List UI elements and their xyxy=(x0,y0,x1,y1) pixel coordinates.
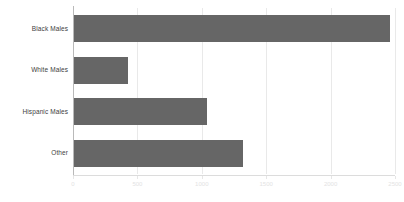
x-tick-label-2500: 2500 xyxy=(388,181,401,187)
bar-row xyxy=(73,57,395,84)
x-tick-label-1500: 1500 xyxy=(260,181,273,187)
x-tick-mark-2500 xyxy=(395,176,396,179)
bar-white-males[interactable] xyxy=(73,57,128,84)
x-tick-mark-2000 xyxy=(331,176,332,179)
x-tick-label-0: 0 xyxy=(71,181,74,187)
bar-other[interactable] xyxy=(73,140,243,167)
category-label-hispanic-males: Hispanic Males xyxy=(0,108,68,115)
x-tick-mark-500 xyxy=(137,176,138,179)
y-axis-line xyxy=(73,6,74,176)
bar-row xyxy=(73,15,395,42)
bar-chart: Black MalesWhite MalesHispanic MalesOthe… xyxy=(0,0,404,202)
x-tick-mark-1500 xyxy=(266,176,267,179)
x-tick-mark-1000 xyxy=(202,176,203,179)
bar-row xyxy=(73,98,395,125)
bar-black-males[interactable] xyxy=(73,15,390,42)
bar-row xyxy=(73,140,395,167)
x-tick-label-2000: 2000 xyxy=(324,181,337,187)
bar-hispanic-males[interactable] xyxy=(73,98,207,125)
category-label-white-males: White Males xyxy=(0,66,68,73)
plot-area xyxy=(73,8,395,174)
category-label-other: Other xyxy=(0,149,68,156)
category-label-black-males: Black Males xyxy=(0,25,68,32)
x-tick-mark-0 xyxy=(73,176,74,179)
x-axis-line xyxy=(73,175,395,176)
gridline-2500 xyxy=(395,8,396,174)
x-tick-label-1000: 1000 xyxy=(195,181,208,187)
x-tick-label-500: 500 xyxy=(132,181,142,187)
